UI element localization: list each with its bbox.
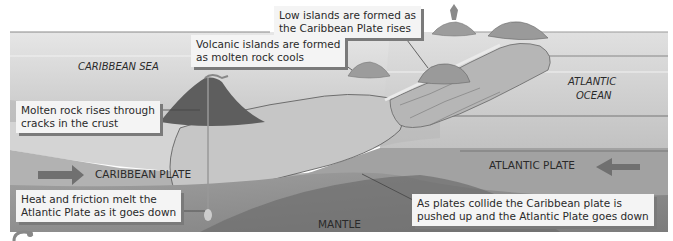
callout-plates-collide-line1: As plates collide the Caribbean plate is [417,197,649,210]
corner-mark-icon [14,231,33,241]
callout-volcanic-islands-line2: as molten rock cools [196,51,340,64]
callout-low-islands-line1: Low islands are formed as [279,9,416,22]
atlantic-plate-label: ATLANTIC PLATE [489,159,575,171]
callout-heat-friction-line2: Atlantic Plate as it goes down [21,206,176,219]
caribbean-plate-label: CARIBBEAN PLATE [95,168,191,180]
callout-heat-friction: Heat and friction melt the Atlantic Plat… [16,190,181,222]
callout-volcanic-islands-line1: Volcanic islands are formed [196,38,340,51]
callout-molten-rock: Molten rock rises through cracks in the … [16,101,160,133]
erupting-island [432,4,476,36]
callout-molten-rock-line1: Molten rock rises through [21,104,155,117]
mantle-label: MANTLE [318,218,361,230]
caribbean-sea-label: CARIBBEAN SEA [78,61,159,72]
callout-molten-rock-line2: cracks in the crust [21,117,155,130]
callout-low-islands: Low islands are formed as the Caribbean … [274,6,421,38]
atlantic-ocean-label-line1: ATLANTIC [568,76,616,87]
callout-plates-collide-line2: pushed up and the Atlantic Plate goes do… [417,210,649,223]
callout-volcanic-islands: Volcanic islands are formed as molten ro… [191,35,345,67]
callout-low-islands-line2: the Caribbean Plate rises [279,22,416,35]
callout-plates-collide: As plates collide the Caribbean plate is… [412,194,654,226]
callout-heat-friction-line1: Heat and friction melt the [21,193,176,206]
low-island-2 [488,22,548,40]
atlantic-ocean-label-line2: OCEAN [576,90,612,101]
